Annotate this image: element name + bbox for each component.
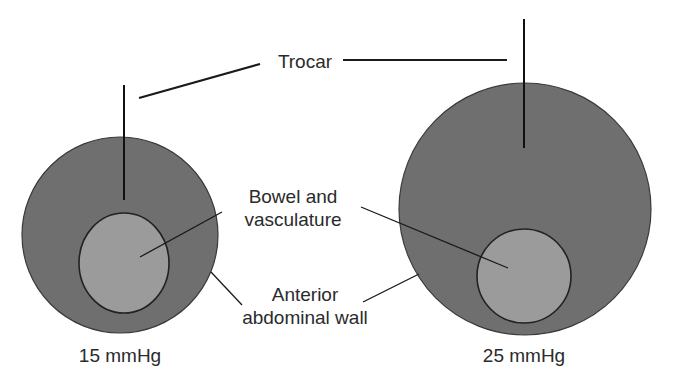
- bowel-label: Bowel and vasculature: [228, 185, 358, 231]
- bowel-label-line2: vasculature: [228, 208, 358, 231]
- trocar-label: Trocar: [270, 50, 340, 73]
- wall-label: Anterior abdominal wall: [230, 283, 380, 329]
- panel-25mmhg: [399, 19, 651, 335]
- bowel-25: [477, 229, 571, 323]
- pressure-label-15: 15 mmHg: [70, 344, 170, 367]
- trocar-leader-left: [139, 64, 260, 98]
- wall-label-line1: Anterior: [230, 283, 380, 306]
- bowel-15: [79, 213, 169, 313]
- pressure-label-25: 25 mmHg: [474, 344, 574, 367]
- wall-label-line2: abdominal wall: [230, 306, 380, 329]
- bowel-label-line1: Bowel and: [228, 185, 358, 208]
- panel-15mmhg: [22, 85, 218, 333]
